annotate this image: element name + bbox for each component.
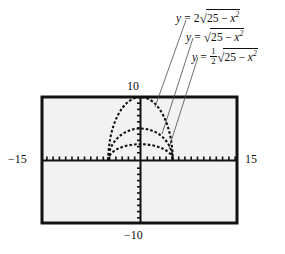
coefficient-fraction: 12 <box>210 47 216 65</box>
label1-radicand: 25−x2 <box>210 28 244 43</box>
axis-label-ymax: 10 <box>127 79 139 94</box>
label2-eq: = <box>200 51 207 63</box>
curve-label-2sqrt: y=2√25−x2 <box>176 9 240 26</box>
label2-lhs: y <box>192 51 197 63</box>
axis-label-xmin: −15 <box>8 152 27 167</box>
label0-lhs: y <box>176 12 181 24</box>
leader-line-2sqrt <box>155 20 186 107</box>
label1-eq: = <box>194 31 201 43</box>
curve-label-sqrt: y=√25−x2 <box>186 28 244 45</box>
label0-eq: = <box>184 12 191 24</box>
axis-label-ymin: −10 <box>124 228 143 243</box>
label1-lhs: y <box>186 31 191 43</box>
label2-radicand: 25−x2 <box>223 48 257 63</box>
curve-label-halfsqrt: y=12√25−x2 <box>192 47 258 65</box>
label0-radicand: 25−x2 <box>206 9 240 24</box>
axis-label-xmax: 15 <box>245 152 257 167</box>
